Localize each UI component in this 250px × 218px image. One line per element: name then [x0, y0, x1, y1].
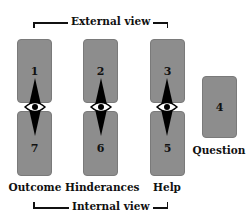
- card-number: 4: [203, 101, 236, 114]
- card-number: 6: [84, 142, 117, 155]
- bracket-tick-right: [167, 22, 169, 28]
- card-number: 5: [151, 142, 184, 155]
- eye-arrow-icon: [156, 78, 178, 136]
- internal-view-label: Internal view: [69, 200, 153, 212]
- label-outcome: Outcome: [0, 181, 70, 193]
- bracket-tick-left: [33, 22, 35, 28]
- external-view-label: External view: [68, 15, 153, 27]
- bracket-tick-left: [33, 202, 35, 208]
- card-4: 4: [202, 76, 237, 138]
- label-hinderances: Hinderances: [65, 181, 135, 193]
- label-help: Help: [132, 181, 202, 193]
- card-number: 1: [18, 65, 51, 78]
- bracket-tick-right: [167, 202, 169, 208]
- card-number: 2: [84, 65, 117, 78]
- card-number: 7: [18, 142, 51, 155]
- eye-arrow-icon: [24, 78, 46, 136]
- card-number: 3: [151, 65, 184, 78]
- eye-arrow-icon: [90, 78, 112, 136]
- label-question: Question: [184, 144, 250, 156]
